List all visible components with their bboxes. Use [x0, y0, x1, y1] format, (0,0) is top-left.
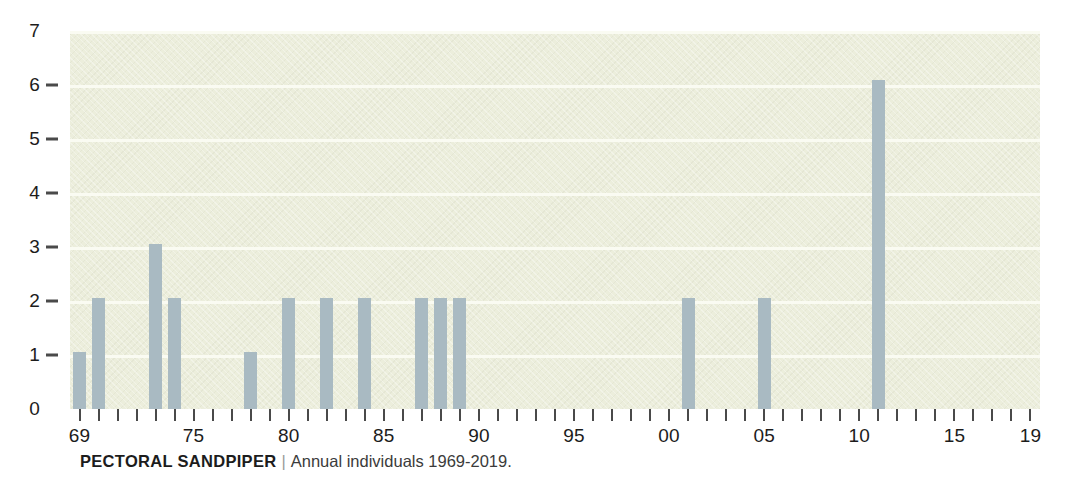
x-tick-label: 05: [753, 425, 775, 447]
y-tick-label: 5: [29, 128, 40, 150]
caption: PECTORAL SANDPIPER|Annual individuals 19…: [80, 452, 512, 471]
gridline: [70, 247, 1040, 250]
x-tick-mark: [972, 409, 974, 421]
x-tick-mark: [478, 409, 480, 421]
bar: [758, 298, 771, 409]
gridline: [70, 139, 1040, 142]
y-tick-label: 2: [29, 290, 40, 312]
x-tick-mark: [858, 409, 860, 421]
gridline: [70, 193, 1040, 196]
y-tick-mark: [46, 84, 58, 87]
x-tick-mark: [668, 409, 670, 421]
x-tick-mark: [554, 409, 556, 421]
x-tick-mark: [611, 409, 613, 421]
x-tick-mark: [288, 409, 290, 421]
x-tick-label: 69: [69, 425, 91, 447]
x-tick-mark: [725, 409, 727, 421]
x-tick-label: 19: [1020, 425, 1042, 447]
y-tick-label: 6: [29, 74, 40, 96]
x-tick-mark: [1029, 409, 1031, 421]
x-tick-label: 15: [944, 425, 966, 447]
x-tick-mark: [953, 409, 955, 421]
x-tick-mark: [592, 409, 594, 421]
x-tick-mark: [991, 409, 993, 421]
x-tick-mark: [915, 409, 917, 421]
caption-species: PECTORAL SANDPIPER: [80, 452, 276, 470]
x-tick-label: 90: [468, 425, 490, 447]
y-tick-label: 1: [29, 344, 40, 366]
bar: [358, 298, 371, 409]
bar: [92, 298, 105, 409]
x-tick-mark: [307, 409, 309, 421]
x-tick-label: 75: [183, 425, 205, 447]
x-tick-mark: [1010, 409, 1012, 421]
x-tick-label: 10: [849, 425, 871, 447]
bar: [282, 298, 295, 409]
bar: [415, 298, 428, 409]
x-tick-mark: [687, 409, 689, 421]
x-tick-mark: [649, 409, 651, 421]
bar: [73, 352, 86, 409]
y-tick-label: 4: [29, 182, 40, 204]
x-tick-mark: [250, 409, 252, 421]
x-tick-mark: [744, 409, 746, 421]
gridline: [70, 355, 1040, 358]
x-tick-mark: [934, 409, 936, 421]
caption-separator: |: [276, 452, 290, 470]
y-tick-mark: [46, 300, 58, 303]
bar: [244, 352, 257, 409]
x-tick-mark: [193, 409, 195, 421]
x-axis: 6975808590950005101519: [70, 409, 1060, 454]
bar: [168, 298, 181, 409]
y-tick-mark: [46, 354, 58, 357]
x-tick-mark: [706, 409, 708, 421]
x-tick-label: 85: [373, 425, 395, 447]
x-tick-mark: [877, 409, 879, 421]
x-tick-mark: [820, 409, 822, 421]
x-tick-mark: [801, 409, 803, 421]
x-tick-mark: [630, 409, 632, 421]
x-tick-mark: [459, 409, 461, 421]
x-tick-mark: [535, 409, 537, 421]
x-tick-mark: [269, 409, 271, 421]
gridline: [70, 85, 1040, 88]
plot-area: [70, 31, 1040, 409]
x-tick-mark: [231, 409, 233, 421]
x-tick-mark: [421, 409, 423, 421]
x-tick-mark: [212, 409, 214, 421]
bar: [320, 298, 333, 409]
x-tick-mark: [345, 409, 347, 421]
x-tick-mark: [440, 409, 442, 421]
x-tick-mark: [98, 409, 100, 421]
x-tick-mark: [402, 409, 404, 421]
y-tick-label: 3: [29, 236, 40, 258]
x-tick-mark: [155, 409, 157, 421]
x-tick-mark: [117, 409, 119, 421]
x-tick-mark: [896, 409, 898, 421]
y-axis: 01234567: [0, 0, 70, 430]
x-tick-mark: [136, 409, 138, 421]
x-tick-label: 95: [563, 425, 585, 447]
x-tick-mark: [516, 409, 518, 421]
bar: [434, 298, 447, 409]
x-tick-mark: [326, 409, 328, 421]
bar: [149, 244, 162, 409]
x-tick-mark: [573, 409, 575, 421]
caption-detail: Annual individuals 1969-2019.: [291, 452, 512, 470]
x-tick-mark: [79, 409, 81, 421]
bar: [682, 298, 695, 409]
x-tick-mark: [364, 409, 366, 421]
x-tick-mark: [782, 409, 784, 421]
bar: [453, 298, 466, 409]
x-tick-mark: [383, 409, 385, 421]
y-tick-label: 7: [29, 20, 40, 42]
x-tick-label: 00: [658, 425, 680, 447]
x-tick-mark: [763, 409, 765, 421]
x-tick-mark: [839, 409, 841, 421]
y-tick-mark: [46, 192, 58, 195]
x-tick-mark: [497, 409, 499, 421]
gridline: [70, 301, 1040, 304]
bar: [872, 80, 885, 409]
x-tick-label: 80: [278, 425, 300, 447]
gridline: [70, 31, 1040, 34]
